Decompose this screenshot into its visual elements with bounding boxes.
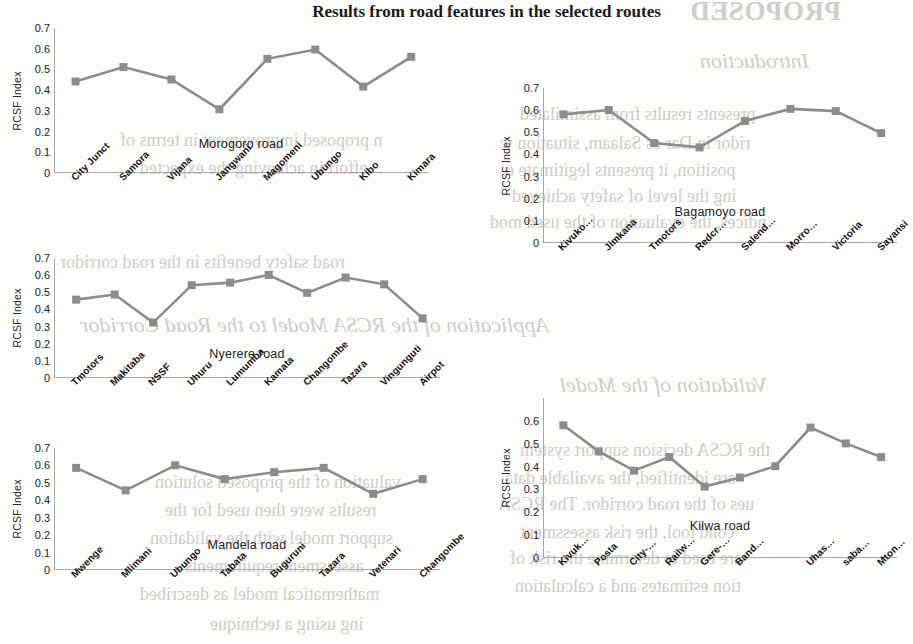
- data-point-marker: [595, 447, 603, 455]
- y-tick-label: 0.3: [524, 171, 539, 183]
- data-point-marker: [419, 475, 427, 483]
- y-tick-label: 0.1: [524, 215, 539, 227]
- y-tick-label: 0.1: [524, 529, 539, 541]
- data-point-marker: [263, 55, 271, 63]
- y-tick-label: 0.2: [35, 529, 50, 541]
- ghost-text: Validation of the Model: [560, 372, 767, 398]
- y-tick-label: 0: [533, 237, 539, 249]
- data-point-marker: [226, 279, 234, 287]
- data-point-marker: [407, 53, 415, 61]
- data-point-marker: [72, 78, 80, 86]
- data-point-marker: [605, 106, 613, 114]
- data-point-marker: [111, 291, 119, 299]
- series-line: [76, 50, 412, 110]
- data-point-marker: [270, 468, 278, 476]
- y-tick-label: 0.1: [35, 547, 50, 559]
- y-tick-label: 0.7: [35, 442, 50, 454]
- x-axis-labels: Kivuko…JimkanaTmotorsRedcr…Salend…Morro……: [543, 243, 897, 303]
- y-tick-label: 0.2: [35, 338, 50, 350]
- x-axis-labels: Kivuk…PostaCity-…Railw…Gere-…Band…Uhas…s…: [543, 558, 897, 618]
- data-point-marker: [741, 117, 749, 125]
- y-axis-label: RCSF Index: [497, 398, 515, 558]
- data-point-marker: [119, 63, 127, 71]
- y-tick-label: 0.5: [524, 126, 539, 138]
- data-point-marker: [72, 464, 80, 472]
- y-axis-ticks: 00.10.20.30.40.50.60.7: [26, 28, 53, 173]
- data-point-marker: [786, 105, 794, 113]
- y-axis-label: RCSF Index: [8, 258, 26, 378]
- plot-area: [543, 398, 897, 558]
- data-point-marker: [665, 453, 673, 461]
- x-axis-labels: MwengeMlimaniUbungoTabataBuguruniTazaraV…: [54, 570, 440, 630]
- page-title: Results from road features in the select…: [0, 2, 913, 22]
- y-tick-label: 0.3: [35, 512, 50, 524]
- data-point-marker: [842, 439, 850, 447]
- y-axis-label: RCSF Index: [8, 448, 26, 570]
- chart-bagamoyo-road: RCSF Index00.10.20.30.40.50.60.7Bagamoyo…: [497, 88, 897, 243]
- data-point-marker: [559, 421, 567, 429]
- chart-title: Kilwa road: [543, 519, 897, 533]
- y-tick-label: 0.6: [524, 104, 539, 116]
- data-point-marker: [696, 143, 704, 151]
- y-tick-label: 0.3: [35, 321, 50, 333]
- data-point-marker: [369, 490, 377, 498]
- data-point-marker: [320, 464, 328, 472]
- data-point-marker: [701, 483, 709, 491]
- y-tick-label: 0.3: [524, 483, 539, 495]
- y-tick-label: 0.5: [35, 477, 50, 489]
- y-tick-label: 0.2: [524, 193, 539, 205]
- y-axis-ticks: 00.10.20.30.40.50.60.7: [26, 258, 53, 378]
- data-point-marker: [807, 424, 815, 432]
- y-tick-label: 0.5: [35, 63, 50, 75]
- data-point-marker: [736, 474, 744, 482]
- data-point-marker: [311, 46, 319, 54]
- y-axis-ticks: 00.10.20.30.40.50.60.7: [26, 448, 53, 570]
- y-tick-label: 0.7: [524, 82, 539, 94]
- y-tick-label: 0.6: [35, 459, 50, 471]
- data-point-marker: [359, 83, 367, 91]
- y-tick-label: 0.2: [524, 506, 539, 518]
- y-tick-label: 0: [533, 552, 539, 564]
- data-point-marker: [215, 105, 223, 113]
- data-point-marker: [72, 296, 80, 304]
- y-tick-label: 0.4: [524, 148, 539, 160]
- data-point-marker: [303, 289, 311, 297]
- y-tick-label: 0.4: [35, 303, 50, 315]
- data-point-marker: [167, 75, 175, 83]
- y-axis-label: RCSF Index: [497, 88, 515, 243]
- y-tick-label: 0.7: [35, 22, 50, 34]
- data-point-marker: [630, 467, 638, 475]
- data-point-marker: [149, 319, 157, 327]
- y-tick-label: 0: [44, 564, 50, 576]
- ghost-text: Introduction: [700, 48, 809, 74]
- y-tick-label: 0.6: [35, 269, 50, 281]
- y-tick-label: 0.7: [35, 252, 50, 264]
- x-axis-labels: TmotorsMakitabaNSSFUhuruLumumbaKamataCha…: [54, 378, 440, 438]
- data-point-marker: [832, 107, 840, 115]
- data-point-marker: [342, 274, 350, 282]
- data-point-marker: [877, 453, 885, 461]
- data-point-marker: [188, 281, 196, 289]
- y-tick-label: 0.4: [35, 494, 50, 506]
- y-tick-label: 0: [44, 167, 50, 179]
- x-axis-labels: City JunctSamoraVijanaJangwaniMagomeniUb…: [54, 173, 428, 233]
- y-tick-label: 0.6: [35, 43, 50, 55]
- chart-title: Mandela road: [54, 538, 440, 552]
- y-tick-label: 0.1: [35, 146, 50, 158]
- y-axis-label: RCSF Index: [8, 28, 26, 173]
- y-tick-label: 0.6: [524, 415, 539, 427]
- series-line: [76, 275, 423, 323]
- y-tick-label: 0.1: [35, 355, 50, 367]
- chart-kilwa-road: RCSF Index00.10.20.30.40.50.6Kilwa roadK…: [497, 398, 897, 558]
- chart-nyerere-road: RCSF Index00.10.20.30.40.50.60.7Nyerere …: [8, 258, 440, 378]
- data-point-marker: [380, 280, 388, 288]
- y-tick-label: 0.5: [35, 286, 50, 298]
- data-point-marker: [650, 139, 658, 147]
- data-point-marker: [265, 271, 273, 279]
- data-point-marker: [221, 475, 229, 483]
- y-tick-label: 0.2: [35, 126, 50, 138]
- y-tick-label: 0: [44, 372, 50, 384]
- data-point-marker: [122, 486, 130, 494]
- data-point-marker: [559, 110, 567, 118]
- data-point-marker: [877, 129, 885, 137]
